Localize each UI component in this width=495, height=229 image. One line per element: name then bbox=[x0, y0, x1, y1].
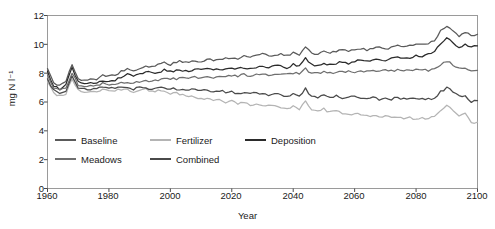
legend-item-combined: Combined bbox=[150, 152, 219, 166]
legend-swatch-icon bbox=[150, 139, 171, 141]
x-tick-label: 2060 bbox=[334, 191, 374, 200]
x-axis-title: Year bbox=[0, 210, 495, 221]
legend-item-meadows: Meadows bbox=[55, 152, 122, 166]
legend-swatch-icon bbox=[55, 139, 76, 141]
legend-label: Combined bbox=[176, 154, 219, 165]
x-axis-tick-labels: 1960 1980 2000 2020 2040 2060 2080 2100 bbox=[0, 191, 495, 205]
series-line-fertilizer bbox=[48, 79, 478, 123]
x-tick-label: 1960 bbox=[27, 191, 67, 200]
chart-figure: mg N l⁻¹ 12 10 8 6 4 2 0 1960 1980 2000 … bbox=[0, 0, 495, 229]
x-tick-label: 2080 bbox=[396, 191, 436, 200]
legend-swatch-icon bbox=[245, 139, 266, 141]
data-series-group bbox=[48, 26, 478, 123]
x-tick-label: 1980 bbox=[88, 191, 128, 200]
x-tick-label: 2100 bbox=[457, 191, 495, 200]
legend-label: Deposition bbox=[271, 135, 316, 146]
x-tick-label: 2040 bbox=[273, 191, 313, 200]
legend-label: Baseline bbox=[81, 135, 117, 146]
legend-swatch-icon bbox=[55, 158, 76, 160]
series-line-baseline bbox=[48, 26, 478, 85]
x-tick-label: 2000 bbox=[150, 191, 190, 200]
chart-legend: Baseline Fertilizer Deposition Meadows C… bbox=[55, 133, 345, 167]
legend-label: Fertilizer bbox=[176, 135, 212, 146]
legend-item-deposition: Deposition bbox=[245, 133, 316, 147]
legend-item-baseline: Baseline bbox=[55, 133, 117, 147]
legend-label: Meadows bbox=[81, 154, 122, 165]
series-line-combined bbox=[48, 76, 478, 102]
legend-item-fertilizer: Fertilizer bbox=[150, 133, 212, 147]
x-tick-label: 2020 bbox=[211, 191, 251, 200]
legend-swatch-icon bbox=[150, 158, 171, 160]
